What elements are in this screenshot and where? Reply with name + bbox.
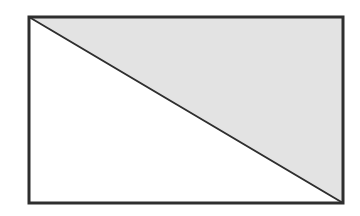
diagram-canvas (0, 0, 360, 216)
rectangle-diagonal-diagram (0, 0, 360, 216)
